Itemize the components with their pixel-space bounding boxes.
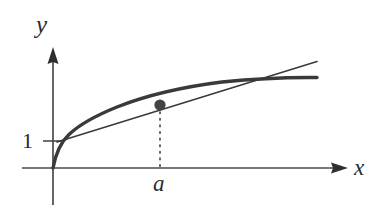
plot-area — [0, 0, 378, 211]
function-curve — [53, 77, 317, 168]
tangent-line — [57, 62, 317, 143]
y-intercept-tick-label: 1 — [22, 130, 33, 152]
axes-group — [22, 47, 348, 205]
x-axis-label: x — [354, 156, 364, 179]
figure-canvas: y x 1 a — [0, 0, 378, 211]
x-tangency-tick-label: a — [153, 172, 165, 195]
tangency-point-dot — [154, 99, 165, 110]
x-axis-arrowhead — [331, 163, 348, 174]
y-axis-arrowhead — [48, 47, 59, 64]
y-axis-label: y — [36, 12, 47, 37]
